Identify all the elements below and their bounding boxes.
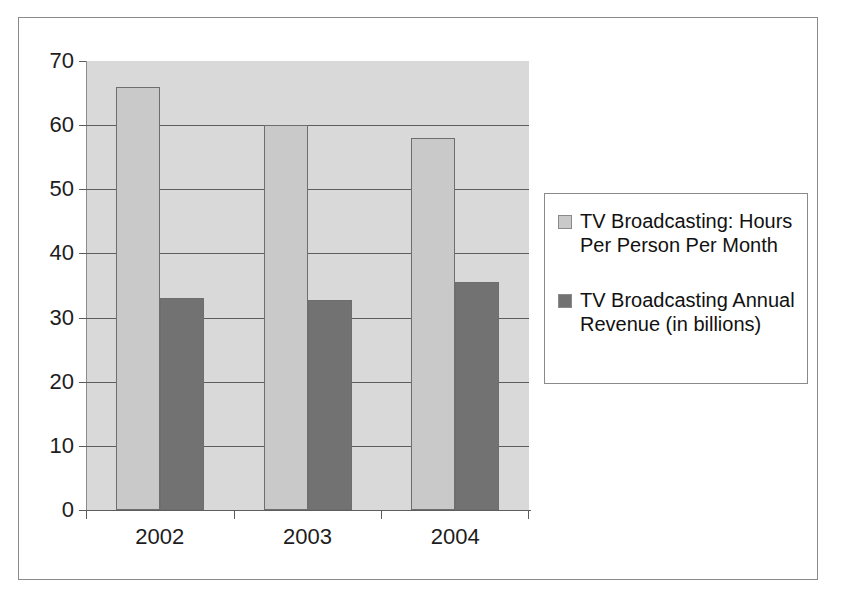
legend-entry: TV Broadcasting Annual Revenue (in billi… xyxy=(558,288,796,337)
y-axis-tick xyxy=(79,189,86,190)
y-axis-tick xyxy=(79,382,86,383)
legend-swatch-series-1-icon xyxy=(558,294,572,308)
y-axis-tick xyxy=(79,446,86,447)
bar-2002-series-0 xyxy=(116,87,160,510)
bar-2002-series-1 xyxy=(160,298,204,510)
y-axis-tick xyxy=(79,125,86,126)
y-axis-tick xyxy=(79,510,86,511)
bar-2004-series-1 xyxy=(455,282,499,510)
y-axis-tick-label: 30 xyxy=(50,307,74,329)
x-axis-tick xyxy=(528,510,529,519)
x-axis-tick xyxy=(234,510,235,519)
y-axis-tick xyxy=(79,253,86,254)
plot-area: 010203040506070 200220032004 xyxy=(86,61,529,510)
x-axis-tick-label: 2004 xyxy=(431,526,480,548)
legend-label-series-1: TV Broadcasting Annual Revenue (in billi… xyxy=(580,288,796,337)
y-axis-tick-label: 20 xyxy=(50,371,74,393)
x-axis-tick xyxy=(86,510,87,519)
x-axis-line xyxy=(85,510,531,511)
x-axis-tick-label: 2003 xyxy=(283,526,332,548)
bar-2003-series-0 xyxy=(264,125,308,510)
x-axis-tick-label: 2002 xyxy=(135,526,184,548)
bar-2003-series-1 xyxy=(308,300,352,510)
legend-label-series-0: TV Broadcasting: Hours Per Person Per Mo… xyxy=(580,209,796,258)
chart-frame: 010203040506070 200220032004 TV Broadcas… xyxy=(18,17,818,580)
y-axis-tick-label: 0 xyxy=(62,499,74,521)
legend-entry: TV Broadcasting: Hours Per Person Per Mo… xyxy=(558,209,796,258)
y-axis-tick-label: 40 xyxy=(50,242,74,264)
y-axis-line xyxy=(86,61,87,510)
y-axis-tick-label: 50 xyxy=(50,178,74,200)
y-axis-tick-label: 70 xyxy=(50,50,74,72)
y-axis-tick xyxy=(79,318,86,319)
y-axis-tick-label: 10 xyxy=(50,435,74,457)
legend-swatch-series-0-icon xyxy=(558,215,572,229)
chart-legend: TV Broadcasting: Hours Per Person Per Mo… xyxy=(544,193,808,384)
bar-2004-series-0 xyxy=(411,138,455,510)
screenshot-canvas: 010203040506070 200220032004 TV Broadcas… xyxy=(0,0,842,607)
y-axis-tick-label: 60 xyxy=(50,114,74,136)
y-axis-tick xyxy=(79,61,86,62)
x-axis-tick xyxy=(381,510,382,519)
